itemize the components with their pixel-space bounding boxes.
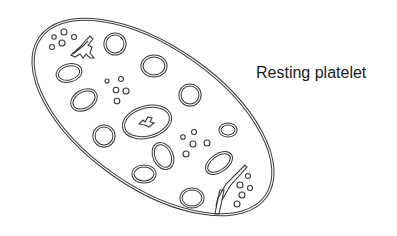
platelet-diagram: Resting platelet [0, 0, 397, 236]
platelet-illustration [0, 0, 397, 236]
figure-label: Resting platelet [256, 64, 366, 82]
canalicular-system [71, 36, 247, 214]
mitochondrion [120, 101, 174, 142]
platelet-membrane [0, 0, 306, 236]
